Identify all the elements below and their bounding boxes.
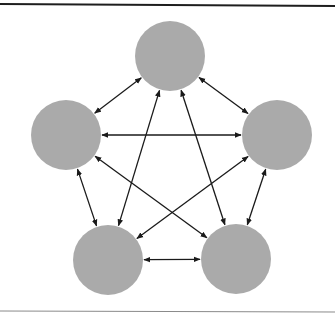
node-bottom-left xyxy=(73,225,143,295)
edge-top-bottom-right xyxy=(181,90,225,225)
edge-left-bottom-left xyxy=(78,169,97,226)
node-right xyxy=(242,100,312,170)
node-left xyxy=(31,100,101,170)
top-rule xyxy=(0,4,335,6)
edge-top-right xyxy=(199,77,248,113)
complete-graph-diagram xyxy=(0,0,335,319)
nodes-group xyxy=(31,21,312,295)
node-top xyxy=(135,21,205,91)
bottom-rule xyxy=(0,311,335,312)
edge-top-bottom-left xyxy=(119,90,160,225)
edge-top-left xyxy=(95,78,142,113)
node-bottom-right xyxy=(201,224,271,294)
edge-right-bottom-right xyxy=(247,169,265,225)
